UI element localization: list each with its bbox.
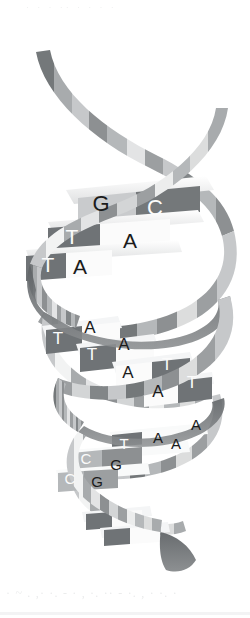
rung-3-right [66,250,112,278]
rung-group-coil-1 [26,176,214,281]
rung-5-left [80,344,116,372]
dna-helix-illustration [0,0,250,618]
dna-helix-figure: · · · ·· · · · · [0,0,250,618]
scan-edge-line [0,612,250,615]
rung-12-left [104,528,130,546]
